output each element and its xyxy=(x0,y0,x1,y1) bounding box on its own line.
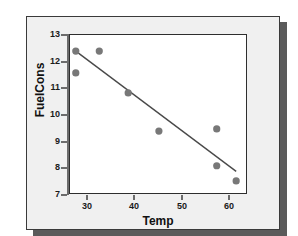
x-tick-label-50: 50 xyxy=(169,201,195,211)
y-tick-12 xyxy=(61,61,67,63)
y-tick-7 xyxy=(61,194,67,196)
y-tick-label-13: 13 xyxy=(30,29,60,39)
data-point xyxy=(72,69,79,76)
top-white-band xyxy=(0,0,298,15)
x-tick-label-60: 60 xyxy=(216,201,242,211)
y-tick-label-7: 7 xyxy=(30,189,60,199)
y-axis-title: FuelCons xyxy=(33,44,47,136)
x-tick-label-30: 30 xyxy=(74,201,100,211)
x-tick-label-40: 40 xyxy=(121,201,147,211)
data-point xyxy=(72,47,79,54)
x-tick-60 xyxy=(228,195,230,200)
y-tick-label-9: 9 xyxy=(30,136,60,146)
x-tick-40 xyxy=(133,195,135,200)
y-tick-10 xyxy=(61,114,67,116)
plot-data-layer xyxy=(69,34,247,194)
data-point xyxy=(155,127,162,134)
regression-line xyxy=(76,51,236,171)
data-point xyxy=(125,89,132,96)
chart-panel: 13 12 11 10 9 8 7 30 40 50 60 FuelCons T… xyxy=(26,16,280,230)
x-axis-title: Temp xyxy=(69,214,247,228)
x-tick-50 xyxy=(181,195,183,200)
data-point xyxy=(96,47,103,54)
data-point xyxy=(233,177,240,184)
x-tick-30 xyxy=(86,195,88,200)
data-point xyxy=(213,162,220,169)
y-tick-label-8: 8 xyxy=(30,162,60,172)
y-tick-9 xyxy=(61,141,67,143)
screenshot-root: 13 12 11 10 9 8 7 30 40 50 60 FuelCons T… xyxy=(0,0,298,236)
regression-line-group xyxy=(76,51,236,171)
y-tick-11 xyxy=(61,87,67,89)
y-tick-13 xyxy=(61,34,67,36)
y-tick-8 xyxy=(61,167,67,169)
data-point xyxy=(213,125,220,132)
